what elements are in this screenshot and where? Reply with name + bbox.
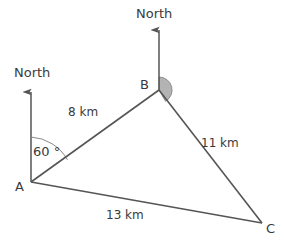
north-label-at-a: North (14, 65, 50, 80)
north-label-at-b: North (136, 6, 172, 21)
vertex-label-a: A (15, 179, 24, 194)
side-label-bc: 11 km (201, 136, 239, 150)
side-label-ac: 13 km (106, 208, 144, 222)
side-bc (159, 90, 262, 223)
bearings-diagram: North North A B C 8 km 11 km 13 km 60 ° (0, 0, 284, 249)
vertex-label-c: C (266, 221, 275, 236)
diagram-canvas: North North A B C 8 km 11 km 13 km 60 ° (0, 0, 284, 249)
side-label-ab: 8 km (68, 105, 98, 119)
side-ac (31, 182, 262, 223)
side-ab (31, 90, 159, 182)
angle-label-at-a: 60 ° (33, 144, 60, 159)
vertex-label-b: B (140, 77, 149, 92)
